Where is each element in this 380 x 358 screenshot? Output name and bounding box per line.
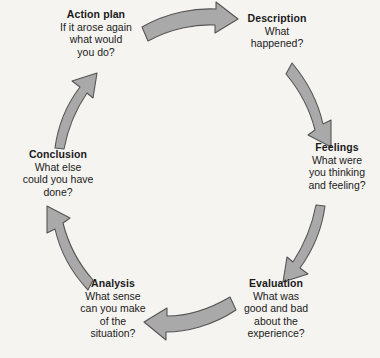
arrow-feelings-to-evaluation [283, 205, 325, 282]
stage-description-title: Description [222, 12, 332, 24]
stage-action-plan-body: If it arose again what would you do? [22, 21, 170, 58]
stage-analysis: Analysis What sense can you make of the … [58, 277, 168, 339]
stage-feelings-body: What were you thinking and feeling? [294, 154, 380, 191]
arrow-conclusion-to-action-plan [55, 73, 97, 149]
stage-evaluation: Evaluation What was good and bad about t… [224, 277, 328, 339]
stage-description: Description What happened? [222, 12, 332, 50]
stage-analysis-title: Analysis [58, 277, 168, 289]
stage-conclusion-title: Conclusion [2, 148, 114, 160]
reflective-cycle-diagram: .blockarrow { fill: #a9a9a9; stroke: #55… [0, 0, 380, 358]
stage-description-body: What happened? [222, 25, 332, 49]
stage-evaluation-title: Evaluation [224, 277, 328, 289]
stage-evaluation-body: What was good and bad about the experien… [224, 290, 328, 339]
stage-conclusion-body: What else could you have done? [2, 161, 114, 198]
arrow-description-to-feelings [286, 63, 331, 147]
stage-action-plan: Action plan If it arose again what would… [22, 8, 170, 58]
stage-conclusion: Conclusion What else could you have done… [2, 148, 114, 198]
stage-feelings: Feelings What were you thinking and feel… [294, 141, 380, 191]
stage-action-plan-title: Action plan [22, 8, 170, 20]
stage-feelings-title: Feelings [294, 141, 380, 153]
stage-analysis-body: What sense can you make of the situation… [58, 290, 168, 339]
